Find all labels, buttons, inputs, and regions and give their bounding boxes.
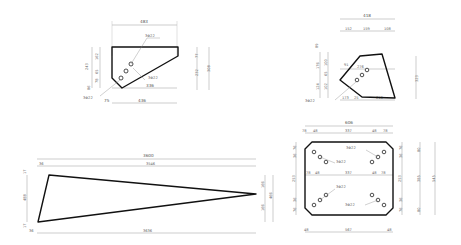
dim-text: 17 <box>23 223 27 228</box>
dim-text: 78 <box>381 171 386 175</box>
dim-text: 48 <box>315 171 320 175</box>
section-c: 606 78 48 337 48 78 78 48 337 48 78 48 5… <box>292 120 436 232</box>
rebar-icon <box>312 150 316 154</box>
dim-text: 36 <box>39 162 44 166</box>
dim-text: 76 <box>399 145 403 150</box>
dim-text: 65 <box>324 71 328 76</box>
dim-text: 77 <box>195 53 199 58</box>
dim-text: 36 <box>293 153 297 158</box>
rebar-label: 3Φ22 <box>148 76 158 80</box>
rebar-label: 3Φ22 <box>346 146 356 150</box>
dim-text: 76 <box>293 145 297 150</box>
leader-line <box>366 150 378 157</box>
leader-line <box>131 38 147 64</box>
dim-text: 91 <box>344 63 349 67</box>
dim-text: 166 <box>261 203 265 211</box>
dim-text: 173 <box>342 96 349 100</box>
rebar-label: 3Φ22 <box>83 96 93 100</box>
rebar-label: 3Φ22 <box>336 160 346 164</box>
dim-text: 276 <box>357 65 365 69</box>
rebar-icon <box>382 203 386 207</box>
dim-text: 36 <box>293 197 297 202</box>
dim-text: 488 <box>23 193 27 201</box>
dim-text: 243 <box>85 63 89 70</box>
dim-text: 545 <box>432 175 436 182</box>
drawing-canvas: 483 75 436 336 243 162 65 78 86 77 232 3… <box>0 0 461 245</box>
dim-text: 337 <box>345 171 352 175</box>
dim-text: 232 <box>195 69 199 76</box>
dim-text: 76 <box>293 207 297 212</box>
dim-text: 253 <box>292 175 296 182</box>
section-d: 3600 36 3546 36 3636 17 488 17 166 166 4… <box>23 153 273 233</box>
rebar-label: 3Φ22 <box>145 34 155 38</box>
rebar-icon <box>355 78 359 82</box>
rebar-label: 3Φ22 <box>336 185 346 189</box>
dim-text: 418 <box>363 13 371 18</box>
dim-text: 466 <box>269 191 273 199</box>
dim-text: 166 <box>261 180 265 188</box>
rebar-icon <box>360 73 364 77</box>
section-d-outline <box>38 175 256 222</box>
dim-text: 89 <box>315 43 319 48</box>
dim-text: 336 <box>146 83 154 88</box>
dim-text: 606 <box>345 120 353 125</box>
rebar-icon <box>365 68 369 72</box>
section-b-outline <box>340 54 395 98</box>
dim-text: 48 <box>372 171 377 175</box>
rebar-icon <box>312 203 316 207</box>
rebar-icon <box>324 193 328 197</box>
section-a: 483 75 436 336 243 162 65 78 86 77 232 3… <box>83 19 211 103</box>
dim-text: 48 <box>313 129 318 133</box>
dim-text: 48 <box>304 228 309 232</box>
section-b: 418 152 159 108 276 91 173 25 218 89 176… <box>305 13 419 103</box>
leader-line <box>320 189 335 200</box>
dim-text: 3546 <box>146 162 156 166</box>
dim-text: 162 <box>95 53 99 60</box>
dim-text: 308 <box>207 64 211 72</box>
dim-text: 100 <box>324 58 328 66</box>
dim-text: 152 <box>345 27 352 31</box>
dim-text: 102 <box>324 83 328 90</box>
dim-text: 78 <box>383 129 388 133</box>
dim-text: 48 <box>372 129 377 133</box>
dim-text: 36 <box>399 153 403 158</box>
rebar-icon <box>370 160 374 164</box>
dim-text: 567 <box>345 228 352 232</box>
dim-text: 25 <box>354 96 359 100</box>
dim-text: 436 <box>138 98 146 103</box>
dim-text: 483 <box>140 19 148 24</box>
dim-text: 36 <box>399 197 403 202</box>
dim-text: 337 <box>345 129 352 133</box>
dim-text: 86 <box>87 85 91 90</box>
leader-line <box>365 200 378 205</box>
rebar-icon <box>382 150 386 154</box>
rebar-label: 3Φ22 <box>305 99 315 103</box>
rebar-label: 3Φ22 <box>345 203 355 207</box>
dim-text: 75 <box>104 98 110 103</box>
dim-text: 176 <box>316 61 320 69</box>
dim-text: 80 <box>417 207 421 212</box>
rebar-icon <box>119 76 123 80</box>
dim-text: 253 <box>398 175 402 182</box>
dim-text: 78 <box>306 171 311 175</box>
dim-text: 17 <box>23 169 27 174</box>
dim-text: 80 <box>417 147 421 152</box>
dim-text: 385 <box>417 175 421 182</box>
dim-text: 48 <box>387 228 392 232</box>
section-a-outline <box>112 47 178 88</box>
rebar-icon <box>324 160 328 164</box>
dim-text: 3600 <box>143 153 154 158</box>
dim-text: 323 <box>415 75 419 82</box>
dim-text: 124 <box>316 82 320 90</box>
rebar-icon <box>370 193 374 197</box>
rebar-icon <box>124 69 128 73</box>
dim-text: 108 <box>384 27 392 31</box>
dim-text: 76 <box>399 207 403 212</box>
dim-text: 159 <box>363 27 371 31</box>
dim-text: 65 <box>95 69 99 74</box>
dim-text: 78 <box>95 78 99 83</box>
dim-text: 3636 <box>143 229 153 233</box>
dim-text: 78 <box>302 129 307 133</box>
dim-text: 36 <box>29 229 34 233</box>
